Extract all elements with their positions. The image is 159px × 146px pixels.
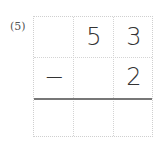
problem-number: (5) (10, 20, 26, 33)
cell-r2-c2 (74, 57, 114, 97)
answer-cell-2[interactable] (74, 99, 114, 139)
cell-r1-c3: 3 (114, 17, 154, 57)
minus-sign: − (34, 57, 74, 97)
subtraction-grid: 5 3 − 2 (33, 16, 153, 137)
cell-r2-c3: 2 (114, 57, 154, 97)
answer-cell-3[interactable] (114, 99, 154, 139)
cell-r1-c2: 5 (74, 17, 114, 57)
answer-cell-1[interactable] (34, 99, 74, 139)
cell-r1-c1 (34, 17, 74, 57)
